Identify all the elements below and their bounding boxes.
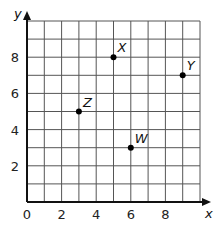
y-tick-label: 6: [11, 86, 19, 101]
x-tick-label: 2: [57, 207, 65, 222]
point-label-y: Y: [187, 58, 196, 73]
y-axis-label: y: [13, 6, 22, 21]
data-point-w: [128, 145, 134, 151]
data-point-y: [180, 72, 186, 78]
grid-lines: [27, 21, 200, 202]
y-tick-label: 2: [11, 159, 19, 174]
point-label-w: W: [135, 131, 149, 146]
y-tick-label: 8: [11, 50, 19, 65]
point-label-z: Z: [82, 95, 93, 110]
point-label-x: X: [117, 40, 128, 55]
x-tick-label: 8: [161, 207, 169, 222]
x-axis-label: x: [204, 206, 213, 221]
x-tick-label: 4: [92, 207, 100, 222]
data-point-z: [76, 109, 82, 115]
x-axis-arrow-icon: [202, 198, 211, 206]
coordinate-grid: 024682468 XYZW x y: [0, 0, 218, 228]
x-tick-label: 6: [127, 207, 135, 222]
y-tick-label: 4: [11, 123, 19, 138]
x-tick-label: 0: [23, 207, 31, 222]
data-point-x: [111, 54, 117, 60]
y-axis-arrow-icon: [23, 11, 31, 20]
